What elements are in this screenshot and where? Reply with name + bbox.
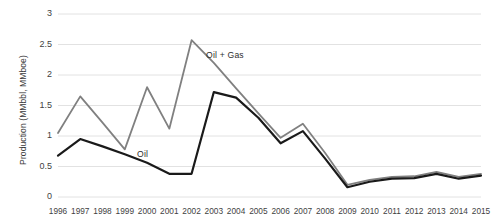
series-lines xyxy=(58,40,481,187)
series-label-oil: Oil xyxy=(137,149,148,159)
gridlines xyxy=(58,14,481,197)
series-label-oil-gas: Oil + Gas xyxy=(206,50,244,60)
series-line-oil xyxy=(58,92,481,187)
series-line-oil-gas xyxy=(58,40,481,185)
